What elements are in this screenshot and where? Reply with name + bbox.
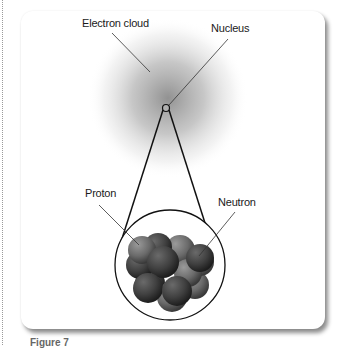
label-electron-cloud: Electron cloud [82,17,149,29]
neutron-ball [186,244,214,272]
figure-caption: Figure 7 [30,337,69,348]
electron-cloud [88,18,248,178]
label-neutron: Neutron [218,196,256,208]
label-proton: Proton [85,187,116,199]
label-nucleus: Nucleus [211,22,249,34]
